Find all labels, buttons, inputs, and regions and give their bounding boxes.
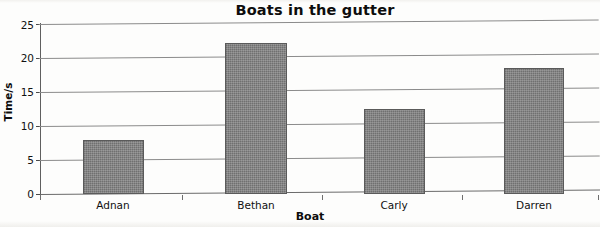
x-tick-mark-0: [40, 195, 41, 200]
x-tick-mark-2: [322, 195, 323, 200]
bar-darren: [504, 68, 564, 194]
gridline-20: [39, 54, 599, 59]
y-tick-label-20: 20: [8, 52, 34, 64]
plot-area: [40, 24, 600, 194]
gridline-25: [39, 20, 599, 25]
y-tick-label-15: 15: [8, 86, 34, 98]
bar-carly: [364, 109, 425, 194]
x-axis-title: Boat: [0, 210, 600, 223]
y-tick-label-10: 10: [8, 120, 34, 132]
bar-adnan: [83, 140, 144, 194]
x-tick-mark-1: [182, 195, 183, 200]
chart-screenshot: Boats in the gutter Time/s 25 20 15 10 5…: [0, 0, 600, 227]
x-tick-mark-3: [462, 195, 463, 200]
y-tick-label-25: 25: [8, 19, 34, 31]
y-tick-label-5: 5: [8, 154, 34, 166]
chart-title: Boats in the gutter: [0, 2, 600, 18]
y-tick-label-0: 0: [8, 188, 34, 200]
bar-bethan: [225, 43, 287, 194]
x-tick-mark-4: [598, 195, 599, 200]
